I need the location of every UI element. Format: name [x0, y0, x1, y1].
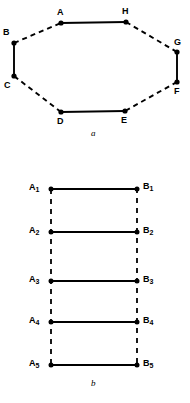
ladder-node-a2 [49, 230, 54, 235]
ladder-node-a5 [49, 363, 54, 368]
ladder-node-a4 [49, 320, 54, 325]
ladder-node-b3 [135, 279, 140, 284]
ladder-node-b5 [135, 363, 140, 368]
caption-a: a [91, 129, 96, 138]
ladder-label-b1: B1 [143, 182, 153, 192]
ladder-node-b2 [135, 230, 140, 235]
ladder-node-a3 [49, 279, 54, 284]
ladder-node-a1 [49, 187, 54, 192]
caption-b: b [91, 379, 96, 388]
ladder-diagram [0, 0, 190, 403]
octagon-label-a: A [57, 8, 64, 17]
ladder-node-b4 [135, 320, 140, 325]
octagon-label-d: D [57, 117, 64, 126]
octagon-label-c: C [4, 81, 11, 90]
ladder-label-b4: B4 [143, 316, 153, 326]
ladder-label-a3: A3 [29, 275, 39, 285]
ladder-label-b3: B3 [143, 275, 153, 285]
octagon-label-g: G [174, 38, 181, 47]
ladder-label-a5: A5 [29, 359, 39, 369]
ladder-label-a2: A2 [29, 226, 39, 236]
ladder-label-b5: B5 [143, 359, 153, 369]
ladder-node-b1 [135, 187, 140, 192]
ladder-label-a4: A4 [29, 316, 39, 326]
octagon-label-b: B [3, 28, 10, 37]
octagon-label-f: F [174, 87, 180, 96]
octagon-label-e: E [121, 116, 127, 125]
ladder-label-a1: A1 [29, 183, 39, 193]
ladder-label-b2: B2 [143, 226, 153, 236]
octagon-label-h: H [122, 7, 129, 16]
figure-root: AHGFEDCBaA1B1A2B2A3B3A4B4A5B5b [0, 0, 190, 403]
